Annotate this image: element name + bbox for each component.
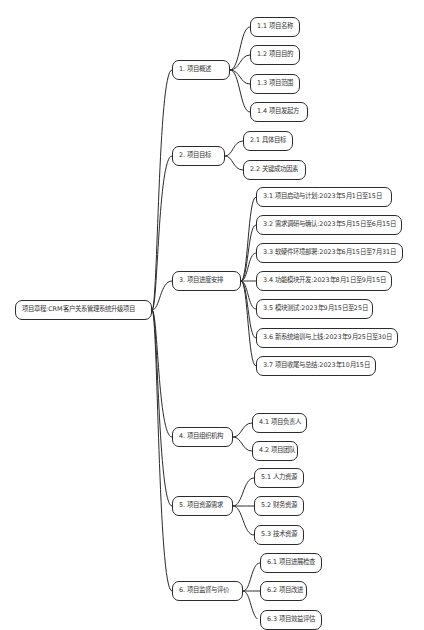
leaf-node-5-1[interactable]: 5.1 人力资源: [254, 468, 304, 488]
leaf-node-3-2[interactable]: 3.2 需求调研与确认:2023年5月15日至6月15日: [256, 215, 402, 235]
leaf-node-6-3[interactable]: 6.3 项目效益评估: [260, 610, 322, 630]
root-node[interactable]: 项目章程:CRM客户关系管理系统升级项目: [15, 300, 152, 320]
leaf-node-1-4[interactable]: 1.4 项目发起方: [250, 102, 308, 122]
leaf-node-3-6[interactable]: 3.6 新系统培训与上线:2023年9月25日至30日: [256, 328, 398, 348]
leaf-node-1-1[interactable]: 1.1 项目名称: [250, 17, 300, 37]
branch-node-1[interactable]: 1. 项目概述: [172, 60, 230, 80]
branch-node-2[interactable]: 2. 项目目标: [172, 146, 225, 166]
leaf-node-6-1[interactable]: 6.1 项目进展检查: [260, 553, 322, 573]
leaf-node-5-3[interactable]: 5.3 技术资源: [254, 525, 304, 545]
branch-node-4[interactable]: 4. 项目组织机构: [172, 427, 233, 447]
leaf-node-3-3[interactable]: 3.3 软硬件环境部署:2023年6月15日至7月31日: [256, 243, 403, 263]
leaf-node-5-2[interactable]: 5.2 财务资源: [254, 496, 304, 516]
branch-node-5[interactable]: 5. 项目资源需求: [172, 496, 233, 516]
leaf-node-3-5[interactable]: 3.5 模块测试:2023年9月15日至25日: [256, 299, 373, 319]
leaf-node-3-4[interactable]: 3.4 功能模块开发:2023年8月1日至9月15日: [256, 271, 392, 291]
leaf-node-3-1[interactable]: 3.1 项目启动与计划:2023年5月1日至15日: [256, 187, 392, 207]
leaf-node-2-2[interactable]: 2.2 关键成功因素: [243, 160, 306, 180]
leaf-node-4-2[interactable]: 4.2 项目团队: [252, 441, 298, 461]
branch-node-3[interactable]: 3. 项目进度安排: [172, 271, 241, 291]
branch-node-6[interactable]: 6. 项目监督与评价: [172, 581, 243, 601]
leaf-node-3-7[interactable]: 3.7 项目收尾与总结:2023年10月15日: [256, 356, 376, 376]
leaf-node-1-3[interactable]: 1.3 项目范围: [250, 74, 300, 94]
leaf-node-6-2[interactable]: 6.2 项目改进: [260, 581, 307, 601]
leaf-node-4-1[interactable]: 4.1 项目负责人: [252, 413, 307, 433]
leaf-node-1-2[interactable]: 1.2 项目目的: [250, 45, 300, 65]
leaf-node-2-1[interactable]: 2.1 具体目标: [243, 131, 293, 151]
